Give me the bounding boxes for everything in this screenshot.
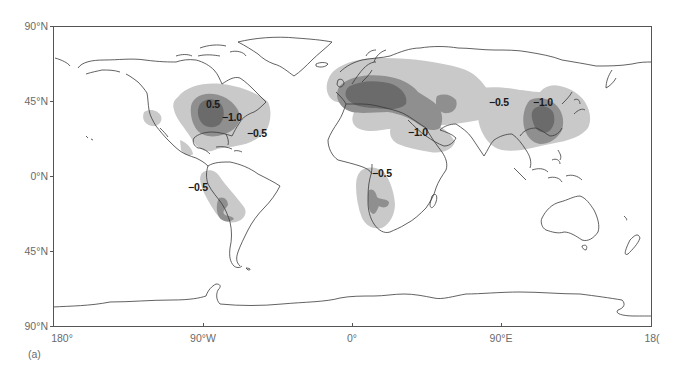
x-tick-label-90w: 90°W [183, 333, 223, 344]
x-tick-label-0: 0° [332, 333, 372, 344]
y-tick-label-0n: 0°N [4, 171, 48, 182]
contour-label-sa-05: −0.5 [188, 182, 208, 193]
y-tick-label-90n: 90°N [4, 21, 48, 32]
contour-label-af-05: −0.5 [372, 168, 392, 179]
y-tick-label-90s: 90°N [4, 321, 48, 332]
y-tick-label-45n: 45°N [4, 96, 48, 107]
contour-label-na-inner: 0.5 [206, 99, 220, 110]
contour-label-as-1: −1.0 [533, 97, 553, 108]
y-tick-label-45s: 45°N [4, 246, 48, 257]
x-tick-label-90e: 90°E [481, 333, 521, 344]
panel-label: (a) [28, 349, 41, 360]
contour-label-as-05: −0.5 [489, 97, 509, 108]
contour-label-na-05: −0.5 [247, 128, 267, 139]
x-tick-label-180e: 18( [632, 333, 672, 344]
x-tick-label-180w: 180° [42, 333, 82, 344]
contour-label-me-1: −1.0 [408, 127, 428, 138]
contour-label-na-1: −1.0 [222, 112, 242, 123]
map-canvas [0, 0, 681, 378]
world-map-figure: 90°N 45°N 0°N 45°N 90°N 180° 90°W 0° 90°… [0, 0, 681, 378]
